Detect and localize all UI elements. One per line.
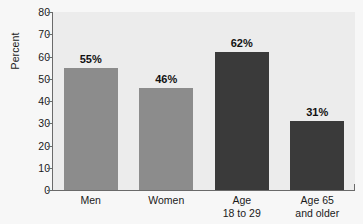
y-axis-tick-mark <box>47 168 52 169</box>
bar-men[interactable] <box>64 68 118 190</box>
bar-women[interactable] <box>139 88 193 190</box>
bar-value-label: 62% <box>215 37 269 49</box>
y-axis-line <box>52 12 53 191</box>
x-axis-tick-label: Age 65and older <box>269 194 363 220</box>
x-axis-tick-label-line1: Age <box>232 194 251 206</box>
y-axis-tick-mark <box>47 101 52 102</box>
y-axis-tick-mark <box>47 190 52 191</box>
x-axis-tick-labels: MenWomenAge18 to 29Age 65and older <box>53 194 355 224</box>
y-axis-tick-mark <box>47 146 52 147</box>
bar-age-18-to-29[interactable] <box>215 52 269 190</box>
x-axis-tick-label-line2: and older <box>269 207 363 220</box>
x-axis-tick-label-line1: Age 65 <box>301 194 334 206</box>
bar-group: 62% <box>215 12 269 190</box>
y-axis-tick-mark <box>47 79 52 80</box>
x-axis-right-end-tick <box>354 184 355 191</box>
bar-value-label: 55% <box>64 53 118 65</box>
bar-chart-figure: Percent 80706050403020100 MenWomenAge18 … <box>0 0 363 224</box>
x-axis-tick-label-line1: Women <box>148 194 184 206</box>
y-axis-tick-mark <box>47 123 52 124</box>
bar-age-65-and-older[interactable] <box>290 121 344 190</box>
bar-group: 55% <box>64 12 118 190</box>
bar-group: 31% <box>290 12 344 190</box>
y-axis-tick-mark <box>47 12 52 13</box>
x-axis-line <box>47 190 355 191</box>
bar-value-label: 31% <box>290 106 344 118</box>
y-axis-tick-mark <box>47 57 52 58</box>
bar-group: 46% <box>139 12 193 190</box>
bar-value-label: 46% <box>139 73 193 85</box>
x-axis-tick-label-line1: Men <box>81 194 101 206</box>
y-axis-tick-mark <box>47 34 52 35</box>
y-axis-title: Percent <box>9 16 23 86</box>
